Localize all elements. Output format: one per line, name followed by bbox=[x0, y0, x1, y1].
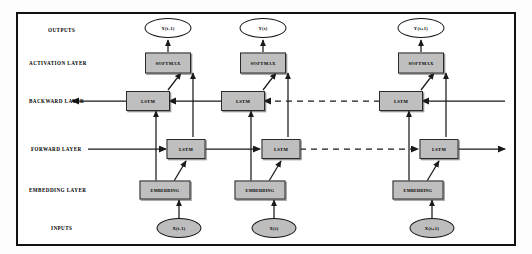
input-node-t-minus-1: X(t-1) bbox=[157, 218, 202, 238]
backward-lstm-t-plus-1: LSTM bbox=[379, 91, 423, 111]
row-label-activation-layer: ACTIVATION LAYER bbox=[29, 60, 87, 66]
forward-lstm-t: LSTM bbox=[262, 139, 301, 159]
figure-border bbox=[16, 12, 516, 246]
embedding-box-t-minus-1: EMBEDDING bbox=[140, 181, 191, 200]
row-label-embedding-layer: EMBEDDING LAYER bbox=[29, 187, 86, 193]
softmax-box-t-minus-1: SOFTMAX bbox=[145, 53, 191, 74]
forward-lstm-t-plus-1: LSTM bbox=[420, 139, 459, 159]
output-node-t: Y(t) bbox=[240, 18, 287, 38]
backward-lstm-t: LSTM bbox=[221, 91, 265, 111]
softmax-box-t-plus-1: SOFTMAX bbox=[398, 53, 444, 74]
row-label-backward-layer: BACKWARD LAYER bbox=[29, 98, 84, 104]
input-node-t: X(t) bbox=[252, 218, 297, 238]
row-label-inputs: INPUTS bbox=[51, 225, 72, 231]
row-label-forward-layer: FORWARD LAYER bbox=[31, 146, 82, 152]
softmax-box-t: SOFTMAX bbox=[240, 53, 286, 74]
backward-lstm-t-minus-1: LSTM bbox=[126, 91, 170, 111]
forward-lstm-t-minus-1: LSTM bbox=[167, 139, 206, 159]
embedding-box-t-plus-1: EMBEDDING bbox=[393, 181, 444, 200]
row-label-outputs: OUTPUTS bbox=[48, 27, 75, 33]
embedding-box-t: EMBEDDING bbox=[235, 181, 286, 200]
output-node-t-plus-1: Y(t+1) bbox=[398, 18, 445, 38]
output-node-t-minus-1: Y(t-1) bbox=[145, 18, 192, 38]
input-node-t-plus-1: X(t+1) bbox=[410, 218, 455, 238]
figure-canvas: OUTPUTS ACTIVATION LAYER BACKWARD LAYER … bbox=[0, 0, 532, 254]
